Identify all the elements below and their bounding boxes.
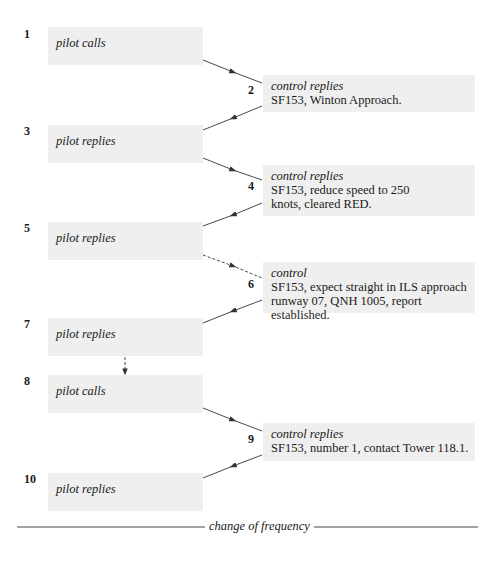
step-number: 6 <box>248 277 254 292</box>
role-label: pilot calls <box>56 384 203 399</box>
change-of-frequency-label: change of frequency <box>205 519 314 534</box>
role-label: control replies <box>271 79 475 93</box>
step-number: 7 <box>24 317 30 332</box>
message-text: SF153, reduce speed to 250 knots, cleare… <box>271 183 421 211</box>
role-label: control <box>271 266 475 280</box>
role-label: control replies <box>271 427 475 441</box>
control-box: control replies SF153, Winton Approach. <box>263 75 475 112</box>
role-label: pilot replies <box>56 134 203 149</box>
role-label: pilot replies <box>56 327 203 342</box>
step-number: 2 <box>248 83 254 98</box>
pilot-box: pilot replies <box>48 222 203 260</box>
pilot-box: pilot calls <box>48 375 203 413</box>
message-text: SF153, Winton Approach. <box>271 93 475 107</box>
step-number: 3 <box>24 124 30 139</box>
role-label: control replies <box>271 169 475 183</box>
control-box: control replies SF153, reduce speed to 2… <box>263 165 475 216</box>
control-box: control replies SF153, number 1, contact… <box>263 423 475 461</box>
step-number: 9 <box>248 432 254 447</box>
message-text: SF153, expect straight in ILS approach r… <box>271 280 476 322</box>
pilot-box: pilot replies <box>48 125 203 163</box>
role-label: pilot calls <box>56 36 203 51</box>
step-number: 4 <box>248 179 254 194</box>
step-number: 1 <box>24 27 30 42</box>
message-text: SF153, number 1, contact Tower 118.1. <box>271 441 475 455</box>
control-box: control SF153, expect straight in ILS ap… <box>263 262 475 313</box>
pilot-box: pilot replies <box>48 318 203 356</box>
pilot-box: pilot calls <box>48 27 203 65</box>
step-number: 8 <box>24 374 30 389</box>
pilot-box: pilot replies <box>48 473 203 511</box>
step-number: 10 <box>24 472 36 487</box>
role-label: pilot replies <box>56 482 203 497</box>
role-label: pilot replies <box>56 231 203 246</box>
step-number: 5 <box>24 221 30 236</box>
